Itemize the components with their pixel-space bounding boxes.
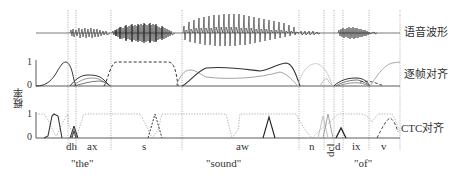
phone-label-n: n bbox=[309, 141, 315, 152]
y-axis-label: 概率 bbox=[14, 88, 24, 108]
phone-label-v: v bbox=[381, 141, 387, 152]
phone-label-s: s bbox=[142, 141, 146, 152]
phone-label-aw: aw bbox=[236, 141, 249, 152]
framewise-ytick-1: 1 bbox=[27, 57, 32, 67]
waveform-panel-label: 语音波形 bbox=[404, 27, 448, 38]
alignment-figure bbox=[0, 0, 454, 179]
ctc-blank bbox=[36, 114, 400, 138]
framewise-ytick-0: 0 bbox=[27, 80, 32, 90]
word-label-sound: "sound" bbox=[206, 158, 241, 169]
ctc-spikes bbox=[44, 114, 398, 138]
framewise-panel-label: 逐帧对齐 bbox=[404, 69, 448, 80]
phone-label-d: d bbox=[335, 141, 341, 152]
word-label-of: "of" bbox=[354, 158, 372, 169]
segment-boundaries bbox=[68, 10, 400, 150]
ctc-axes bbox=[36, 112, 400, 138]
waveform bbox=[36, 14, 400, 46]
ctc-ytick-1: 1 bbox=[27, 109, 32, 119]
phone-label-ix: ix bbox=[352, 141, 361, 152]
ctc-ytick-0: 0 bbox=[27, 132, 32, 142]
framewise-curves bbox=[36, 62, 400, 86]
ctc-panel-label: CTC对齐 bbox=[401, 123, 444, 134]
phone-label-ax: ax bbox=[87, 141, 97, 152]
word-label-the: "the" bbox=[71, 158, 93, 169]
phone-label-dh: dh bbox=[66, 141, 77, 152]
